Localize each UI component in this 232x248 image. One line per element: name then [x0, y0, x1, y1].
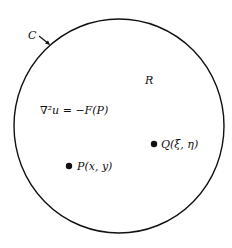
equation-label: ∇²u = −F(P) — [40, 105, 108, 116]
point-q-dot — [151, 141, 157, 147]
point-q-label: Q(ξ, η) — [161, 139, 198, 150]
point-p-dot — [66, 163, 72, 169]
boundary-curve — [14, 19, 224, 233]
point-p-label: P(x, y) — [77, 161, 112, 172]
boundary-label: C — [28, 30, 36, 41]
region-label: R — [145, 75, 153, 86]
